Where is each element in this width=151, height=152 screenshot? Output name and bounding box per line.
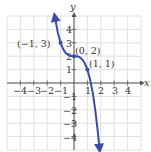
- y-tick-label: 4: [66, 24, 72, 35]
- x-tick-label: −4: [13, 85, 27, 96]
- y-tick-label: −3: [63, 118, 77, 129]
- x-tick-label: −2: [40, 85, 54, 96]
- y-tick-label: 1: [66, 64, 72, 75]
- x-axis-label: x: [144, 77, 150, 88]
- point-label-1-1: (1, 1): [89, 58, 115, 69]
- point-label-neg1-3: (−1, 3): [17, 38, 51, 49]
- y-tick-label: −1: [63, 91, 77, 102]
- x-tick-label: 4: [125, 85, 131, 96]
- point-neg1-3: [59, 41, 63, 45]
- x-tick-label: 2: [98, 85, 104, 96]
- y-axis-label: y: [69, 1, 76, 12]
- cubic-function-graph: x y −4 −3 −2 −1 1 2 3 4 4 3 2 1 −1 −2 −3…: [0, 0, 151, 152]
- x-tick-label: 3: [112, 85, 118, 96]
- x-tick-label: 1: [85, 85, 91, 96]
- y-tick-label: 3: [66, 38, 72, 49]
- x-tick-label: −3: [27, 85, 41, 96]
- y-tick-label: −4: [63, 132, 77, 143]
- point-label-0-2: (0, 2): [75, 45, 101, 56]
- y-tick-label: −2: [63, 105, 77, 116]
